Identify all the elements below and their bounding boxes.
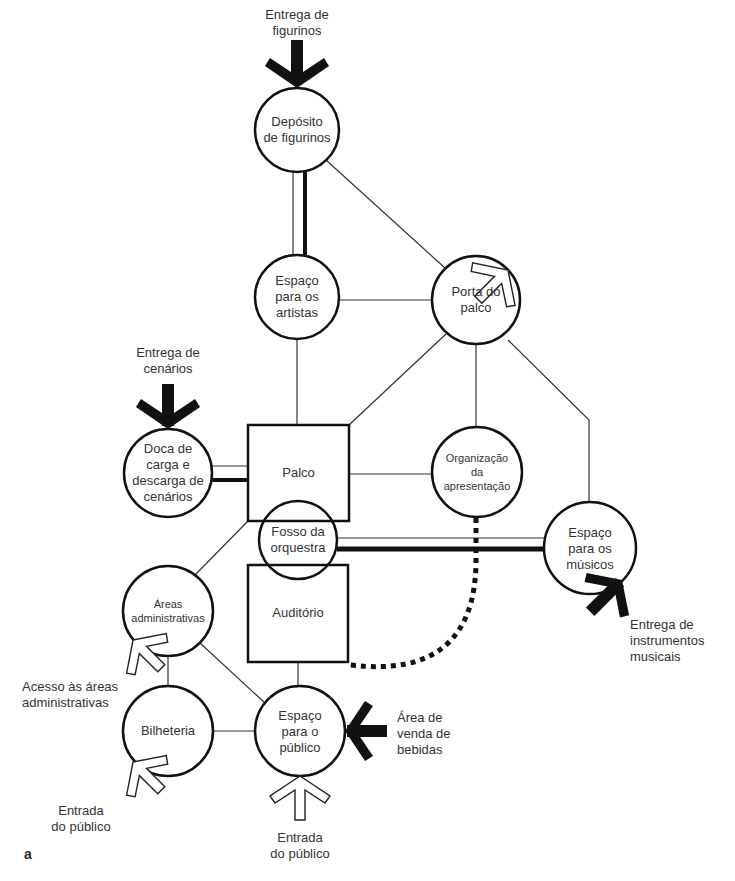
arrow-entrega-cenarios-icon	[136, 384, 200, 429]
node-shapes	[123, 88, 636, 776]
annotation-entrega-figurinos: Entrega de figurinos	[247, 7, 347, 39]
annotation-entrada-publico-left: Entrada do público	[36, 803, 126, 835]
line-palco-admin	[195, 521, 248, 575]
arrow-entrega-figurinos-icon	[265, 40, 329, 88]
label-deposito: Depósito de figurinos	[247, 114, 347, 146]
figure-label: a	[24, 846, 32, 862]
line-deposito-porta	[326, 160, 445, 268]
line-porta-palco	[349, 334, 446, 425]
annotation-entrega-cenarios: Entrega de cenários	[118, 345, 218, 377]
annotation-venda-bebidas: Área de venda de bebidas	[397, 710, 477, 758]
label-organizacao: Organização da apresentação	[427, 451, 527, 493]
diagram-canvas	[0, 0, 735, 881]
label-publico: Espaço para o público	[250, 708, 350, 756]
dotted-link-organizacao-auditorio	[350, 518, 476, 667]
label-bilheteria: Bilheteria	[118, 723, 218, 739]
thin-connections	[168, 160, 589, 731]
label-admin: Áreas administrativas	[118, 597, 218, 625]
label-artistas: Espaço para os artistas	[247, 273, 347, 321]
annotation-acesso-admin: Acesso às áreas administrativas	[22, 679, 142, 711]
solid-arrows	[136, 40, 643, 761]
label-palco: Palco	[248, 465, 349, 481]
annotation-entrada-publico-bottom: Entrada do público	[255, 830, 345, 862]
label-auditorio: Auditório	[248, 605, 348, 621]
label-doca: Doca de carga e descarga de cenários	[118, 441, 218, 505]
annotation-entrega-instrumentos: Entrega de instrumentos musicais	[630, 617, 735, 665]
label-musicos: Espaço para os músicos	[540, 525, 640, 573]
arrow-entrada-publico-bottom-icon	[270, 776, 330, 820]
arrow-venda-bebidas-icon	[345, 701, 387, 761]
label-fosso: Fosso da orquestra	[248, 524, 348, 556]
label-porta: Porta do palco	[426, 284, 526, 316]
